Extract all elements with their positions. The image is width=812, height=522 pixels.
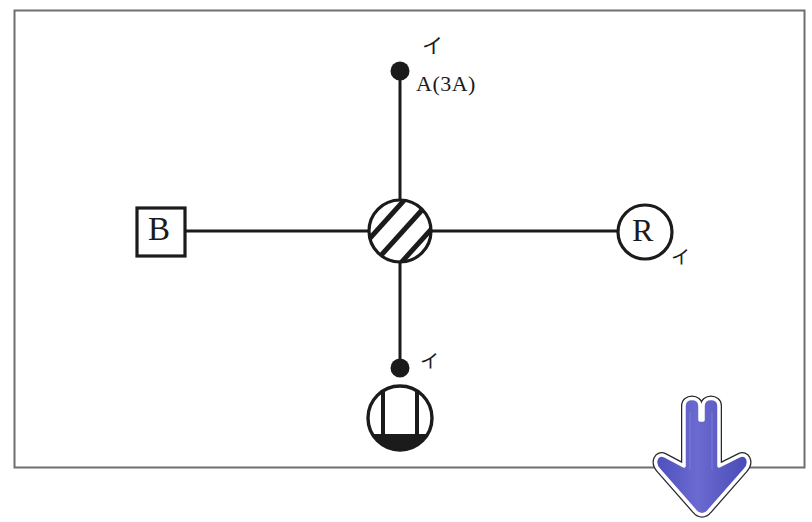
left-box-label: B	[148, 213, 170, 246]
right-circle-label: R	[632, 214, 653, 246]
diagram-canvas: A(3A) イ イ イ B R	[0, 0, 812, 522]
kana-marker-right: イ	[671, 248, 690, 267]
kana-marker-bottom: イ	[420, 352, 439, 371]
bottom-terminal-dot	[391, 359, 410, 378]
top-terminal-label: A(3A)	[416, 73, 476, 95]
kana-marker-top: イ	[422, 36, 443, 57]
schematic-drawing	[0, 0, 812, 522]
top-terminal-dot	[391, 62, 410, 81]
